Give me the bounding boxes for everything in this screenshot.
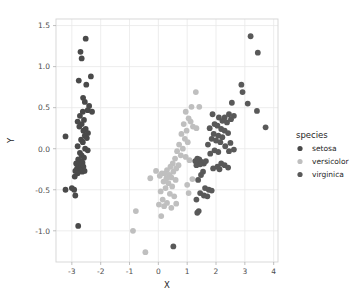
data-point bbox=[82, 168, 88, 174]
data-point bbox=[63, 133, 69, 139]
legend-marker-versicolor[interactable] bbox=[297, 159, 302, 164]
data-point bbox=[204, 193, 210, 199]
data-point bbox=[195, 177, 201, 183]
data-point bbox=[83, 82, 89, 88]
data-point bbox=[63, 187, 69, 193]
data-point bbox=[207, 125, 213, 131]
data-point bbox=[173, 201, 179, 207]
data-point bbox=[210, 111, 216, 117]
data-point bbox=[133, 208, 139, 214]
y-tick-label-2: 0.0 bbox=[38, 145, 50, 154]
data-point bbox=[173, 177, 179, 183]
data-point bbox=[78, 49, 84, 55]
legend-label-versicolor[interactable]: versicolor bbox=[312, 157, 350, 166]
data-point bbox=[186, 190, 192, 196]
data-point bbox=[170, 244, 176, 250]
data-point bbox=[188, 119, 194, 125]
data-point bbox=[217, 166, 223, 172]
data-point bbox=[263, 124, 269, 130]
legend-marker-virginica[interactable] bbox=[297, 172, 302, 177]
data-point bbox=[255, 50, 261, 56]
y-tick-label-1: -0.5 bbox=[35, 186, 50, 195]
data-point bbox=[169, 184, 175, 190]
data-point bbox=[171, 193, 177, 199]
data-point bbox=[254, 108, 260, 114]
data-point bbox=[210, 166, 216, 172]
y-tick-label-5: 1.5 bbox=[38, 21, 50, 30]
data-point bbox=[179, 131, 185, 137]
data-point bbox=[72, 193, 78, 199]
data-point bbox=[156, 202, 162, 208]
data-point bbox=[158, 189, 164, 195]
data-point bbox=[240, 89, 246, 95]
data-point bbox=[89, 109, 95, 115]
data-point bbox=[72, 174, 78, 180]
legend-marker-setosa[interactable] bbox=[297, 146, 302, 151]
data-point bbox=[76, 78, 82, 84]
data-point bbox=[222, 143, 228, 149]
data-point bbox=[194, 210, 200, 216]
data-point bbox=[79, 56, 85, 62]
data-point bbox=[88, 74, 94, 80]
data-point bbox=[219, 134, 225, 140]
x-tick-label-7: 4 bbox=[271, 267, 276, 276]
legend-label-setosa[interactable]: setosa bbox=[312, 144, 337, 153]
data-point bbox=[185, 139, 191, 145]
data-point bbox=[184, 182, 190, 188]
data-point bbox=[163, 185, 169, 191]
data-point bbox=[231, 147, 237, 153]
x-tick-label-1: -2 bbox=[97, 267, 105, 276]
plot-canvas: -3-2-101234-1.0-0.50.00.51.01.5XYspecies… bbox=[0, 0, 360, 303]
data-point bbox=[183, 109, 189, 115]
data-point bbox=[75, 143, 81, 149]
legend-title: species bbox=[296, 130, 328, 140]
data-point bbox=[80, 139, 86, 145]
data-point bbox=[194, 197, 200, 203]
data-point bbox=[71, 187, 77, 193]
data-point bbox=[224, 120, 230, 126]
data-point bbox=[226, 148, 232, 154]
data-point bbox=[187, 157, 193, 163]
data-point bbox=[168, 205, 174, 211]
data-point bbox=[248, 33, 254, 39]
data-point bbox=[209, 188, 215, 194]
data-point bbox=[83, 36, 89, 42]
y-tick-label-4: 1.0 bbox=[38, 62, 50, 71]
data-point bbox=[245, 101, 251, 107]
data-point bbox=[82, 99, 88, 105]
data-point bbox=[178, 152, 184, 158]
data-point bbox=[181, 121, 187, 127]
scatter-plot-figure: -3-2-101234-1.0-0.50.00.51.01.5XYspecies… bbox=[0, 0, 360, 303]
data-point bbox=[172, 156, 178, 162]
data-point bbox=[130, 228, 136, 234]
y-tick-label-3: 0.5 bbox=[38, 103, 50, 112]
data-point bbox=[228, 140, 234, 146]
legend-label-virginica[interactable]: virginica bbox=[312, 170, 344, 179]
x-tick-label-3: 0 bbox=[156, 267, 161, 276]
data-point bbox=[238, 82, 244, 88]
data-point bbox=[229, 100, 235, 106]
data-point bbox=[189, 176, 195, 182]
x-tick-label-0: -3 bbox=[68, 267, 76, 276]
data-point bbox=[203, 158, 209, 164]
data-point bbox=[153, 168, 159, 174]
y-tick-label-0: -1.0 bbox=[35, 227, 50, 236]
data-point bbox=[215, 149, 221, 155]
x-tick-label-6: 3 bbox=[242, 267, 247, 276]
data-point bbox=[205, 142, 211, 148]
x-tick-label-2: -1 bbox=[126, 267, 134, 276]
x-tick-label-4: 1 bbox=[185, 267, 190, 276]
y-axis-title: Y bbox=[6, 137, 16, 144]
data-point bbox=[157, 173, 163, 179]
data-point bbox=[142, 249, 148, 255]
data-point bbox=[161, 203, 167, 209]
data-point bbox=[225, 130, 231, 136]
data-point bbox=[194, 162, 200, 168]
data-point bbox=[161, 179, 167, 185]
x-axis-title: X bbox=[164, 280, 170, 290]
data-point bbox=[158, 213, 164, 219]
data-point bbox=[207, 151, 213, 157]
data-point bbox=[75, 223, 81, 229]
data-point bbox=[198, 172, 204, 178]
data-point bbox=[193, 89, 199, 95]
